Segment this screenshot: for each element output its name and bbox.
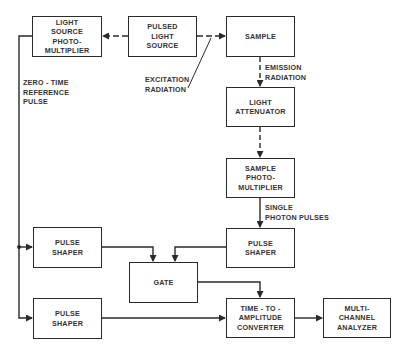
excitation-radiation-label: EXCITATION RADIATION xyxy=(145,75,189,94)
light-attenuator-block: LIGHT ATTENUATOR xyxy=(226,87,295,127)
block-label: PULSE SHAPER xyxy=(245,239,276,258)
sample-photomultiplier-block: SAMPLE PHOTO- MULTIPLIER xyxy=(226,158,295,198)
block-label: LIGHT ATTENUATOR xyxy=(235,98,285,117)
single-photon-pulses-label: SINGLE PHOTON PULSES xyxy=(265,203,329,222)
block-label: LIGHT SOURCE PHOTO- MULTIPLIER xyxy=(45,18,90,56)
gate-to-tac xyxy=(198,282,260,297)
block-label: PULSE SHAPER xyxy=(52,238,83,257)
emission-radiation-label: EMISSION RADIATION xyxy=(265,63,306,82)
pulse-shaper-right-block: PULSE SHAPER xyxy=(226,228,295,268)
shaper-to-gate-right xyxy=(175,247,226,261)
gate-block: GATE xyxy=(129,262,198,303)
time-to-amplitude-converter-block: TIME - TO - AMPLITUDE CONVERTER xyxy=(226,298,295,338)
block-label: GATE xyxy=(153,278,173,288)
sample-block: SAMPLE xyxy=(226,16,295,57)
pulsed-light-source-block: PULSED LIGHT SOURCE xyxy=(128,16,197,57)
block-label: SAMPLE PHOTO- MULTIPLIER xyxy=(238,164,283,193)
shaper-to-gate-left xyxy=(102,247,153,261)
zero-time-reference-label: ZERO - TIME REFERENCE PULSE xyxy=(23,78,69,107)
junction-dot xyxy=(17,245,21,249)
block-label: PULSE SHAPER xyxy=(52,309,83,328)
pulse-shaper-left-top-block: PULSE SHAPER xyxy=(33,227,102,268)
multichannel-analyzer-block: MULTI- CHANNEL ANALYZER xyxy=(323,298,391,338)
block-label: MULTI- CHANNEL ANALYZER xyxy=(337,304,377,333)
block-label: TIME - TO - AMPLITUDE CONVERTER xyxy=(237,304,284,333)
pulse-shaper-left-bottom-block: PULSE SHAPER xyxy=(33,298,102,339)
block-label: PULSED LIGHT SOURCE xyxy=(147,22,179,51)
light-source-photomultiplier-block: LIGHT SOURCE PHOTO- MULTIPLIER xyxy=(32,16,102,57)
block-label: SAMPLE xyxy=(245,32,276,42)
